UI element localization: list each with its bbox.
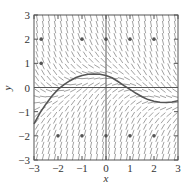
slope-segment — [149, 82, 154, 86]
slope-segment — [108, 112, 110, 118]
slope-segment — [89, 52, 93, 57]
y-tick-label: 1 — [25, 57, 31, 69]
slope-segment — [150, 15, 151, 21]
slope-segment — [48, 39, 50, 45]
slope-segment — [126, 118, 129, 124]
slope-segment — [95, 45, 98, 51]
slope-segment — [53, 64, 56, 70]
slope-segment — [46, 83, 51, 87]
slope-segment — [77, 100, 80, 105]
slope-segment — [137, 118, 140, 124]
slope-segment — [84, 154, 85, 160]
slope-segment — [144, 148, 146, 154]
slope-segment — [72, 130, 74, 136]
slope-segment — [155, 76, 159, 81]
slope-segment — [60, 124, 62, 130]
slope-segment — [53, 106, 57, 111]
slope-segment — [156, 57, 158, 63]
slope-segment — [161, 82, 165, 87]
slope-segment — [131, 112, 134, 117]
slope-segment — [132, 142, 134, 148]
slope-segment — [150, 57, 152, 63]
slope-segment — [54, 57, 57, 63]
slope-segment — [78, 39, 80, 45]
slope-segment — [132, 118, 135, 124]
slope-segment — [124, 84, 130, 85]
slope-segment — [138, 57, 141, 63]
slope-segment — [154, 107, 160, 110]
slope-segment — [168, 142, 170, 148]
slope-segment — [138, 154, 139, 160]
slope-segment — [41, 76, 45, 81]
slope-segment — [36, 57, 38, 63]
slope-segment — [173, 118, 177, 123]
slope-segment — [36, 130, 39, 136]
slope-segment — [130, 83, 136, 85]
slope-segment — [42, 21, 43, 27]
slope-segment — [96, 106, 99, 112]
slope-segment — [155, 113, 160, 117]
slope-segment — [90, 142, 91, 148]
slope-segment — [70, 84, 76, 85]
x-axis-label: x — [103, 172, 109, 184]
slope-segment — [168, 33, 169, 39]
slope-segment — [47, 118, 50, 123]
slope-segment — [173, 76, 177, 81]
slope-segment — [156, 21, 157, 27]
marked-point — [152, 37, 156, 41]
slope-segment — [114, 27, 116, 33]
slope-segment — [48, 124, 51, 130]
slope-segment — [138, 130, 140, 136]
slope-segment — [168, 136, 170, 142]
slope-segment — [66, 33, 68, 39]
slope-segment — [168, 57, 170, 63]
slope-segment — [70, 89, 76, 92]
slope-segment — [84, 15, 86, 21]
slope-segment — [72, 118, 74, 124]
slope-segment — [48, 63, 51, 69]
slope-segment — [60, 57, 63, 63]
slope-segment — [72, 124, 74, 130]
slope-segment — [166, 107, 172, 110]
slope-segment — [132, 57, 135, 63]
slope-segment — [162, 45, 164, 51]
slope-segment — [102, 118, 104, 124]
slope-segment — [48, 33, 50, 39]
slope-segment — [167, 76, 170, 81]
slope-segment — [88, 83, 94, 86]
slope-segment — [162, 63, 165, 69]
slope-segment — [54, 154, 55, 160]
slope-segment — [126, 15, 127, 21]
slope-segment — [94, 78, 100, 79]
slope-segment — [168, 154, 170, 160]
slope-segment — [102, 39, 105, 45]
slope-segment — [149, 124, 152, 130]
slope-segment — [113, 58, 117, 63]
slope-segment — [96, 33, 98, 39]
marked-point — [128, 134, 132, 138]
slope-segment — [138, 39, 140, 45]
slope-segment — [42, 148, 44, 154]
slope-segment — [114, 154, 115, 160]
slope-segment — [126, 33, 128, 39]
slope-segment — [52, 101, 57, 104]
slope-segment — [137, 70, 141, 75]
slope-segment — [114, 124, 116, 130]
slope-segment — [118, 89, 124, 92]
slope-segment — [66, 154, 67, 160]
slope-segment — [125, 64, 129, 69]
slope-segment — [66, 148, 67, 154]
slope-segment — [113, 94, 117, 99]
slope-segment — [101, 94, 105, 99]
y-axis-label: y — [1, 85, 13, 91]
y-tick-label: −1 — [18, 106, 30, 118]
slope-segment — [126, 148, 127, 154]
slope-segment — [132, 136, 134, 142]
slope-segment — [102, 27, 104, 33]
marked-point — [128, 37, 132, 41]
slope-segment — [132, 15, 133, 21]
slope-segment — [64, 90, 70, 92]
marked-point — [80, 134, 84, 138]
slope-segment — [174, 130, 177, 136]
slope-segment — [82, 71, 88, 73]
